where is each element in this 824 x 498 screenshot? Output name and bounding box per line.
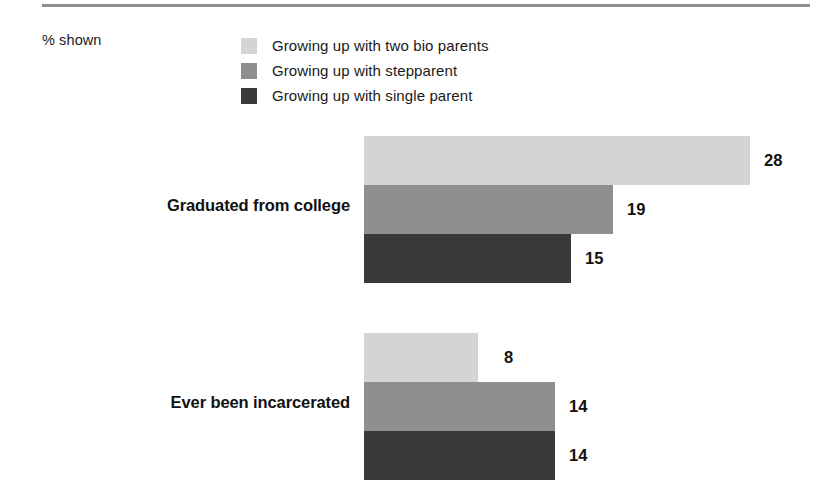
- bar-incarcerated-stepparent: [364, 382, 555, 431]
- bar-value-label: 14: [569, 382, 587, 431]
- bar-row: 14: [364, 431, 587, 480]
- bar-value-label: 28: [764, 136, 782, 185]
- bar-row: 19: [364, 185, 645, 234]
- bar-value-label: 15: [585, 234, 603, 283]
- bar-row: 14: [364, 382, 587, 431]
- bar-value-label: 19: [627, 185, 645, 234]
- bar-graduated-stepparent: [364, 185, 613, 234]
- bar-value-label: 8: [504, 333, 513, 382]
- chart-figure: % shown Growing up with two bio parentsG…: [0, 0, 824, 498]
- plot-area: Graduated from college281915Ever been in…: [0, 0, 824, 498]
- bar-incarcerated-two-bio-parents: [364, 333, 478, 382]
- bar-row: 15: [364, 234, 603, 283]
- bar-graduated-two-bio-parents: [364, 136, 750, 185]
- category-label: Graduated from college: [167, 196, 350, 215]
- bar-value-label: 14: [569, 431, 587, 480]
- category-label: Ever been incarcerated: [171, 393, 350, 412]
- bar-row: 8: [364, 333, 513, 382]
- bar-row: 28: [364, 136, 782, 185]
- bar-graduated-single-parent: [364, 234, 571, 283]
- bar-incarcerated-single-parent: [364, 431, 555, 480]
